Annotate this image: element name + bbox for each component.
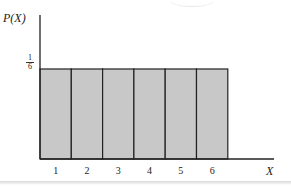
bar-1 <box>40 69 71 159</box>
probability-distribution-chart: P(X) 1 6 123456 X <box>0 0 291 188</box>
bar-3 <box>103 69 134 159</box>
x-tick-label: 6 <box>206 165 218 176</box>
bar-5 <box>165 69 196 159</box>
x-tick-label: 5 <box>175 165 187 176</box>
bars-group <box>40 69 228 159</box>
bar-4 <box>134 69 165 159</box>
x-tick-label: 2 <box>81 165 93 176</box>
x-tick-label: 1 <box>50 165 62 176</box>
bar-2 <box>71 69 102 159</box>
x-axis-label: X <box>266 164 273 179</box>
x-tick-label: 4 <box>144 165 156 176</box>
x-tick-label: 3 <box>112 165 124 176</box>
page-edge-shadow <box>0 181 291 185</box>
plot-area <box>0 0 291 188</box>
bar-6 <box>197 69 228 159</box>
